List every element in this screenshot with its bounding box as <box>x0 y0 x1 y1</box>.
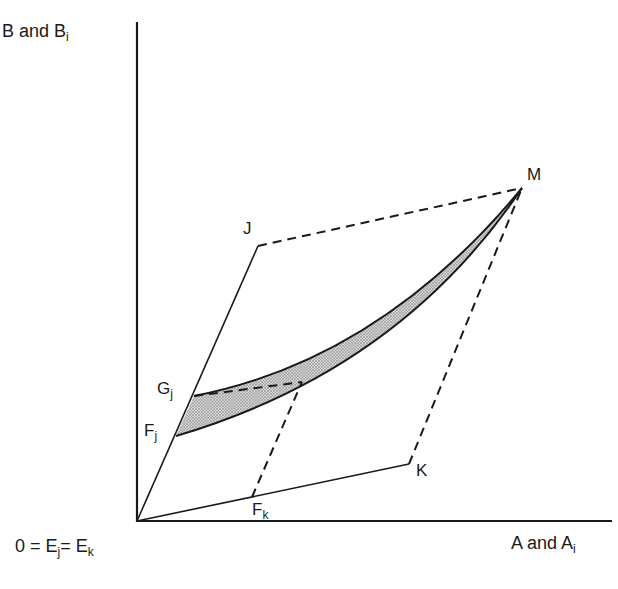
point-fk-text: F <box>252 500 262 519</box>
point-fj-text: F <box>144 421 154 440</box>
point-gj-sub: j <box>170 387 173 401</box>
point-label-fj: Fj <box>144 422 157 442</box>
y-axis-label-main: B and B <box>2 21 66 41</box>
x-axis-label: A and Ai <box>511 534 576 555</box>
point-label-k: K <box>416 462 427 479</box>
point-label-m: M <box>527 166 541 183</box>
point-fj-sub: j <box>154 429 157 443</box>
point-label-fk: Fk <box>252 501 268 521</box>
x-axis-label-sub: i <box>573 542 576 556</box>
point-label-gj: Gj <box>157 380 173 400</box>
point-gj-text: G <box>157 379 170 398</box>
origin-label-part: 0 = E <box>15 536 58 556</box>
point-j-text: J <box>243 219 252 238</box>
origin-label-sub: k <box>88 545 94 559</box>
y-axis-label: B and Bi <box>2 22 69 43</box>
x-axis-label-main: A and A <box>511 533 573 553</box>
point-label-j: J <box>243 220 252 237</box>
point-fk-sub: k <box>262 508 268 522</box>
origin-label: 0 = Ej= Ek <box>15 537 94 558</box>
origin-label-part: = E <box>60 536 88 556</box>
point-m-text: M <box>527 165 541 184</box>
point-k-text: K <box>416 461 427 480</box>
edgeworth-box-diagram <box>0 0 618 589</box>
ray-origin-to-k <box>137 464 409 521</box>
dashed-k-to-m <box>409 188 522 464</box>
y-axis-label-sub: i <box>66 30 69 44</box>
ray-origin-to-j <box>137 246 258 521</box>
